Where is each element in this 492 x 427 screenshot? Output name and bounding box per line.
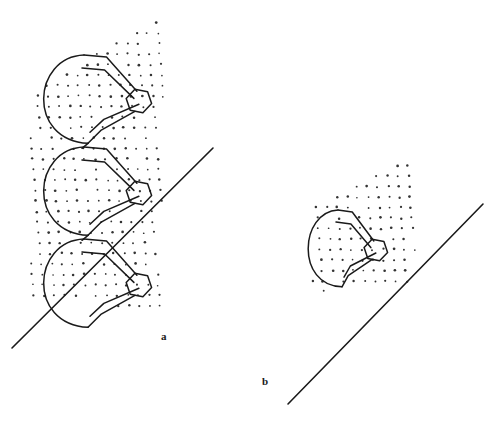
panel-label-a: a <box>161 331 167 342</box>
diagonal-line-b <box>288 204 483 404</box>
figure-canvas <box>0 0 492 427</box>
diagonal-line-a <box>12 148 213 348</box>
figure-container: a b <box>0 0 492 427</box>
panel-label-b: b <box>262 376 268 387</box>
helical-coil-a <box>44 55 152 327</box>
helical-coil-b <box>308 210 387 287</box>
